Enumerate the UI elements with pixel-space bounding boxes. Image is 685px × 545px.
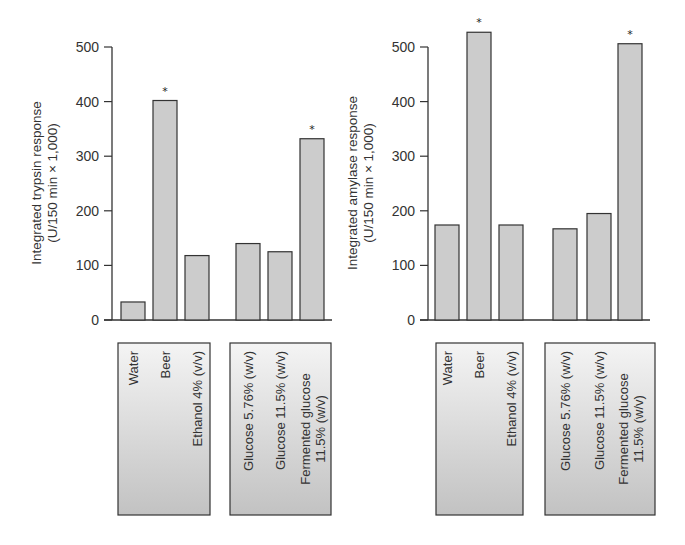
trypsin-y-tick-label: 400: [76, 94, 100, 110]
trypsin-category-labels: WaterBeerEthanol 4% (v/v)Glucose 5.76% (…: [118, 343, 331, 515]
trypsin-category-label: 11.5% (w/v): [313, 395, 328, 463]
trypsin-bars: **: [121, 85, 324, 320]
trypsin-bar: [185, 256, 209, 320]
trypsin-y-tick-label: 0: [91, 312, 99, 328]
amylase-y-tick-label: 200: [392, 203, 416, 219]
trypsin-bar: [153, 101, 177, 320]
amylase-y-tick-label: 100: [392, 257, 416, 273]
amylase-bar: [618, 44, 642, 320]
trypsin-bar: [300, 139, 324, 320]
amylase-category-label: Beer: [472, 350, 487, 378]
trypsin-y-axis-units: (U/150 min × 1,000): [45, 123, 60, 243]
trypsin-bar: [121, 302, 145, 320]
amylase-category-label: Fermented glucose: [616, 373, 631, 484]
amylase-y-tick-label: 500: [392, 39, 416, 55]
amylase-category-label: Glucose 11.5% (w/v): [592, 351, 607, 470]
trypsin-y-ticks: 0100200300400500: [76, 39, 112, 328]
trypsin-category-label: Glucose 11.5% (w/v): [273, 351, 288, 470]
amylase-category-label: Water: [440, 350, 455, 385]
trypsin-bar: [236, 244, 260, 320]
trypsin-y-tick-label: 100: [76, 257, 100, 273]
trypsin-significance-marker: *: [162, 85, 168, 98]
trypsin-y-tick-label: 300: [76, 148, 100, 164]
trypsin-category-label: Water: [126, 350, 141, 385]
amylase-category-labels: WaterBeerEthanol 4% (v/v)Glucose 5.76% (…: [436, 343, 655, 515]
amylase-y-axis-units: (U/150 min × 1,000): [361, 123, 376, 243]
trypsin-significance-marker: *: [309, 123, 315, 136]
amylase-bar: [467, 32, 491, 320]
amylase-bar: [587, 214, 611, 320]
amylase-bar: [435, 225, 459, 320]
amylase-significance-marker: *: [476, 16, 482, 29]
trypsin-y-axis-title: Integrated trypsin response: [29, 101, 44, 265]
trypsin-axes: [104, 47, 332, 320]
trypsin-bar: [268, 252, 292, 320]
trypsin-category-label: Beer: [158, 350, 173, 378]
amylase-category-label: Ethanol 4% (v/v): [504, 351, 519, 446]
amylase-y-axis-title: Integrated amylase response: [345, 96, 360, 270]
trypsin-category-label: Ethanol 4% (v/v): [190, 351, 205, 446]
amylase-y-ticks: 0100200300400500: [392, 39, 428, 328]
amylase-category-label: 11.5% (w/v): [631, 395, 646, 463]
trypsin-category-label: Glucose 5.76% (w/v): [241, 351, 256, 471]
amylase-y-tick-label: 300: [392, 148, 416, 164]
figure: 0100200300400500 Integrated trypsin resp…: [0, 0, 685, 545]
chart-amylase: 0100200300400500 Integrated amylase resp…: [345, 16, 655, 515]
amylase-y-tick-label: 400: [392, 94, 416, 110]
amylase-significance-marker: *: [627, 28, 633, 41]
trypsin-category-label: Fermented glucose: [298, 373, 313, 484]
trypsin-y-tick-label: 200: [76, 203, 100, 219]
amylase-bar: [499, 225, 523, 320]
amylase-bar: [553, 229, 577, 320]
amylase-y-tick-label: 0: [407, 312, 415, 328]
amylase-bars: **: [435, 16, 642, 320]
trypsin-y-tick-label: 500: [76, 39, 100, 55]
amylase-category-label: Glucose 5.76% (w/v): [558, 351, 573, 471]
chart-trypsin: 0100200300400500 Integrated trypsin resp…: [29, 39, 332, 515]
